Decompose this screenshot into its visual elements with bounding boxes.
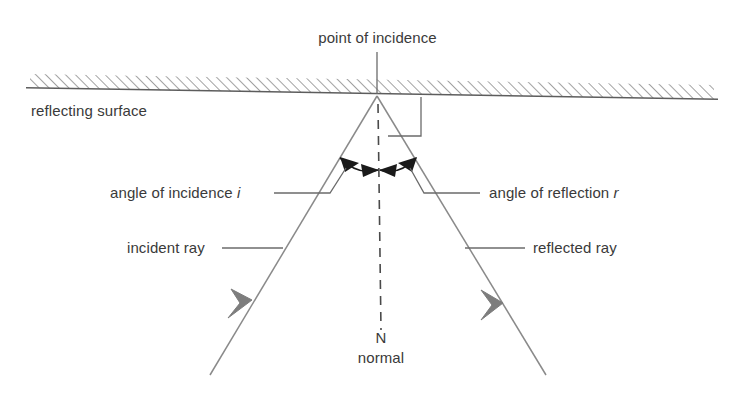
incident-ray-arrowhead	[228, 289, 252, 318]
normal-dashed-line	[378, 104, 381, 330]
angle-of-incidence-leader	[274, 168, 346, 193]
normal-word-label: normal	[341, 350, 421, 365]
incident-ray-label: incident ray	[127, 240, 205, 255]
reflecting-surface-hatching	[30, 74, 714, 99]
reflection-diagram: point of incidence reflecting surface an…	[0, 0, 747, 396]
right-angle-marker	[388, 97, 421, 136]
angle-of-reflection-arrow	[379, 157, 417, 177]
normal-symbol-label: N	[351, 330, 411, 345]
reflecting-surface-label: reflecting surface	[31, 103, 147, 118]
angle-of-reflection-label: angle of reflection r	[489, 185, 619, 200]
reflected-ray-label: reflected ray	[533, 240, 617, 255]
reflected-ray-arrowhead	[481, 290, 503, 320]
angle-of-reflection-leader	[410, 168, 480, 193]
angle-of-incidence-arrow	[340, 157, 379, 177]
angle-of-incidence-label: angle of incidence i	[110, 185, 240, 200]
angle-of-incidence-text: angle of incidence	[110, 184, 237, 201]
angle-of-incidence-symbol: i	[237, 184, 240, 201]
angle-of-reflection-text: angle of reflection	[489, 184, 614, 201]
point-of-incidence-label: point of incidence	[305, 30, 450, 45]
angle-of-reflection-symbol: r	[614, 184, 619, 201]
